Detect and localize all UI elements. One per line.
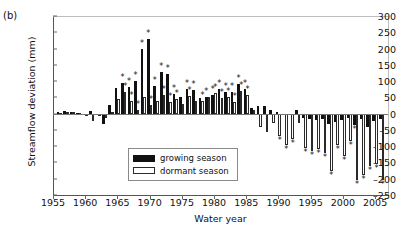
significance-marker: *: [368, 167, 372, 175]
significance-marker: *: [323, 154, 327, 162]
significance-marker: *: [153, 77, 157, 85]
significance-marker: *: [168, 93, 172, 101]
bar-dormant-1990: [278, 114, 281, 137]
bar-dormant-2002: [356, 114, 359, 181]
legend: growing season dormant season: [128, 148, 238, 181]
bar-dormant-1984: [240, 91, 243, 114]
bar-growing-1968: [134, 81, 137, 114]
y-tick-label: 50: [348, 92, 396, 103]
bar-dormant-1983: [233, 102, 236, 114]
y-tick-mark: [53, 129, 57, 130]
bar-dormant-1982: [227, 97, 230, 114]
significance-marker: *: [133, 72, 137, 80]
significance-marker: *: [310, 152, 314, 160]
bar-dormant-2001: [349, 114, 352, 142]
bar-dormant-2004: [369, 114, 372, 166]
x-tick-mark: [246, 195, 247, 199]
figure-panel-b: (b) Streamflow deviation (mm) Water year…: [0, 0, 396, 232]
legend-swatch-dormant: [133, 167, 155, 174]
y-tick-mark: [53, 64, 57, 65]
x-tick-mark: [375, 195, 376, 199]
bar-dormant-1992: [291, 114, 294, 139]
significance-marker: *: [123, 83, 127, 91]
significance-marker: *: [381, 181, 385, 189]
y-tick-mark: [53, 81, 57, 82]
bar-dormant-1996: [317, 114, 320, 150]
x-axis-label: Water year: [53, 213, 388, 224]
bar-dormant-1997: [324, 114, 327, 153]
significance-marker: *: [175, 90, 179, 98]
bar-dormant-1979: [208, 97, 211, 113]
x-tick-mark: [214, 195, 215, 199]
significance-marker: *: [374, 165, 378, 173]
bar-dormant-2005: [375, 114, 378, 164]
legend-item-growing: growing season: [133, 153, 233, 163]
significance-marker: *: [355, 181, 359, 189]
significance-marker: *: [239, 82, 243, 90]
bar-growing-1988: [263, 106, 266, 114]
significance-marker: *: [204, 88, 208, 96]
legend-label-growing: growing season: [160, 153, 227, 163]
legend-swatch-growing: [133, 155, 155, 162]
significance-marker: *: [246, 86, 250, 94]
plot-frame-bottom: [53, 195, 389, 196]
bar-dormant-1973: [169, 102, 172, 114]
significance-marker: *: [226, 88, 230, 96]
x-tick-mark: [278, 195, 279, 199]
significance-marker: *: [220, 89, 224, 97]
bar-dormant-1961: [92, 114, 95, 121]
bar-dormant-1987: [259, 114, 262, 127]
bar-dormant-1999: [336, 114, 339, 145]
significance-marker: *: [316, 150, 320, 158]
significance-marker: *: [362, 176, 366, 184]
bar-dormant-1974: [175, 99, 178, 113]
significance-marker: *: [284, 146, 288, 154]
bar-dormant-1972: [163, 95, 166, 114]
significance-marker: *: [213, 84, 217, 92]
significance-marker: *: [217, 80, 221, 88]
y-axis-label: Streamflow deviation (mm): [26, 17, 37, 187]
significance-marker: *: [230, 83, 234, 91]
bar-dormant-1981: [221, 98, 224, 114]
bar-dormant-1993: [298, 114, 301, 124]
significance-marker: *: [140, 40, 144, 48]
bar-dormant-1970: [150, 105, 153, 114]
x-tick-mark: [117, 195, 118, 199]
significance-marker: *: [188, 87, 192, 95]
y-tick-label: 150: [348, 59, 396, 70]
bar-dormant-1991: [285, 114, 288, 145]
significance-marker: *: [146, 30, 150, 38]
bar-dormant-2000: [343, 114, 346, 156]
significance-marker: *: [336, 146, 340, 154]
significance-marker: *: [278, 137, 282, 145]
significance-marker: *: [191, 81, 195, 89]
bar-dormant-1994: [304, 114, 307, 148]
bar-dormant-1980: [214, 93, 217, 113]
y-tick-mark: [53, 16, 57, 17]
bar-dormant-2003: [362, 114, 365, 176]
y-tick-mark: [53, 178, 57, 179]
x-tick-mark: [85, 195, 86, 199]
bar-dormant-1965: [117, 99, 120, 113]
legend-label-dormant: dormant season: [160, 166, 229, 176]
significance-marker: *: [233, 93, 237, 101]
y-tick-label: 250: [348, 27, 396, 38]
bar-dormant-2006: [382, 114, 385, 181]
significance-marker: *: [342, 157, 346, 165]
significance-marker: *: [149, 96, 153, 104]
significance-marker: *: [349, 142, 353, 150]
significance-marker: *: [329, 172, 333, 180]
bar-dormant-1967: [130, 101, 133, 113]
plot-frame-top: [53, 16, 388, 17]
y-tick-mark: [53, 48, 57, 49]
significance-marker: *: [162, 86, 166, 94]
zero-reference-line: [53, 114, 388, 115]
bar-dormant-1977: [195, 101, 198, 114]
x-tick-mark: [343, 195, 344, 199]
bar-dormant-1978: [201, 101, 204, 113]
x-tick-mark: [311, 195, 312, 199]
significance-marker: *: [127, 78, 131, 86]
significance-marker: *: [121, 74, 125, 82]
bar-dormant-1989: [272, 114, 275, 124]
y-tick-mark: [53, 97, 57, 98]
